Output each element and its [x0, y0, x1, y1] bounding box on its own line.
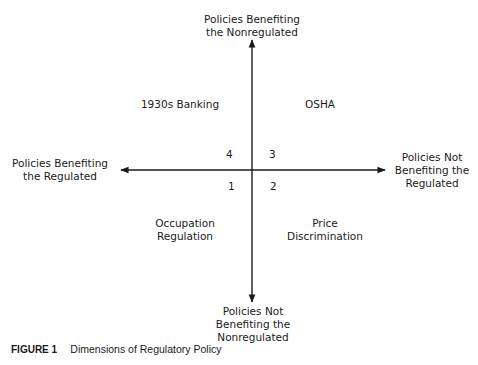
figure-caption: FIGURE 1 Dimensions of Regulatory Policy	[11, 343, 221, 355]
axis-label-bottom: Policies Not Benefiting the Nonregulated	[212, 305, 294, 344]
axis-label-right: Policies Not Benefiting the Regulated	[391, 151, 473, 190]
axis-label-left-line1: Policies Benefiting	[10, 157, 110, 170]
quadrant-1-example: Occupation Regulation	[145, 217, 225, 243]
quadrant-number-1: 1	[228, 180, 235, 193]
figure-label: FIGURE 1	[11, 344, 57, 355]
quadrant-number-2: 2	[270, 180, 277, 193]
figure-title: Dimensions of Regulatory Policy	[70, 343, 221, 355]
axis-label-right-line3: Regulated	[391, 177, 473, 190]
quadrant-1-example-line2: Regulation	[145, 230, 225, 243]
axis-label-bottom-line2: Benefiting the	[212, 318, 294, 331]
quadrant-2-example-line1: Price	[275, 217, 375, 230]
quadrant-4-example: 1930s Banking	[130, 98, 230, 111]
axis-label-top-line2: the Nonregulated	[202, 26, 302, 39]
axis-label-top: Policies Benefiting the Nonregulated	[202, 13, 302, 39]
quadrant-2-example-line2: Discrimination	[275, 230, 375, 243]
axis-label-left: Policies Benefiting the Regulated	[10, 157, 110, 183]
quadrant-number-3: 3	[269, 148, 276, 161]
axis-label-left-line2: the Regulated	[10, 170, 110, 183]
quadrant-number-4: 4	[226, 148, 233, 161]
quadrant-2-example: Price Discrimination	[275, 217, 375, 243]
axis-label-right-line1: Policies Not	[391, 151, 473, 164]
quadrant-1-example-line1: Occupation	[145, 217, 225, 230]
axis-label-top-line1: Policies Benefiting	[202, 13, 302, 26]
quadrant-3-example: OSHA	[290, 98, 350, 111]
axis-label-bottom-line1: Policies Not	[212, 305, 294, 318]
axis-label-right-line2: Benefiting the	[391, 164, 473, 177]
axis-label-bottom-line3: Nonregulated	[212, 331, 294, 344]
